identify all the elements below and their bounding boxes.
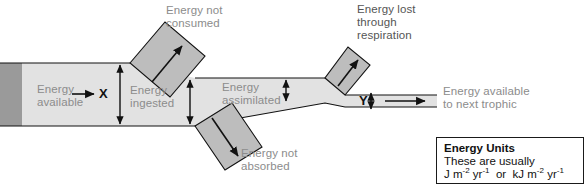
unit-kj-base: kJ m (513, 168, 537, 180)
label-energy-assimilated: Energy assimilated (222, 81, 281, 107)
label-energy-not-consumed: Energy not consumed (166, 4, 223, 30)
label-energy-not-absorbed: Energy not absorbed (241, 147, 298, 173)
label-energy-lost-respiration: Energy lost through respiration (357, 3, 416, 42)
label-energy-available: Energy available (37, 83, 83, 109)
unit-j-exp-area: -2 (463, 166, 470, 175)
units-conjunction: or (496, 168, 506, 180)
label-energy-ingested: Energy ingested (130, 84, 174, 110)
unit-kj-exp-year: -1 (557, 166, 564, 175)
energy-source-block (0, 63, 22, 126)
unit-kj-exp-area: -2 (537, 166, 544, 175)
label-energy-next-trophic: Energy available to next trophic (443, 85, 530, 111)
unit-j-exp-year: -1 (482, 166, 489, 175)
energy-units-box: Energy Units These are usually J m-2 yr-… (436, 137, 584, 184)
units-box-values: J m-2 yr-1 or kJ m-2 yr-1 (444, 168, 583, 181)
unit-j-base: J m (444, 168, 463, 180)
units-box-title: Energy Units (444, 142, 583, 155)
label-variable-y: Y (359, 94, 368, 107)
unit-j-mid: yr (470, 168, 483, 180)
label-variable-x: X (99, 87, 108, 100)
unit-kj-mid: yr (544, 168, 557, 180)
energy-flow-diagram: Energy available X Energy not consumed E… (0, 0, 588, 188)
